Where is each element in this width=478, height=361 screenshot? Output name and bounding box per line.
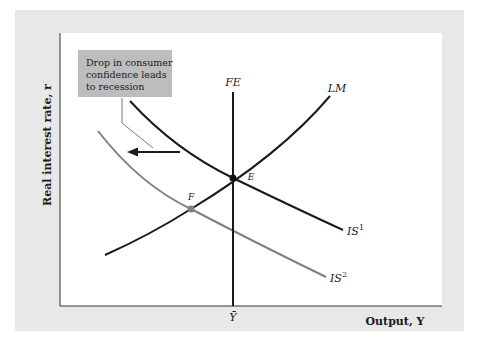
- point-f-label: F: [187, 192, 195, 202]
- callout-line-2: confidence leads: [86, 69, 167, 80]
- callout-line-1: Drop in consumer: [86, 57, 173, 68]
- lm-label: LM: [327, 82, 347, 95]
- point-e: [230, 175, 237, 182]
- is-lm-fe-diagram: Real interest rate, r Output, Y Ȳ FE LM …: [0, 0, 478, 361]
- callout-line-3: to recession: [86, 81, 144, 92]
- x-axis-label: Output, Y: [366, 315, 425, 328]
- y-axis-label: Real interest rate, r: [41, 84, 54, 206]
- fe-label: FE: [224, 76, 241, 89]
- point-e-label: E: [247, 172, 255, 182]
- point-f: [188, 206, 195, 213]
